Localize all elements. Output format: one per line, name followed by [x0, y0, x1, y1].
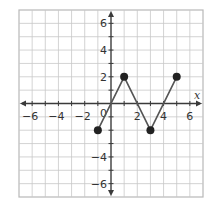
data-point: [146, 126, 154, 134]
x-tick-label: 4: [160, 110, 167, 123]
x-tick-label: 6: [186, 110, 193, 123]
data-point: [120, 73, 128, 81]
x-axis-left-arrow-icon: [20, 101, 26, 107]
x-axis-label: x: [194, 89, 201, 102]
y-axis-up-arrow-icon: [108, 11, 114, 17]
y-tick-label: 4: [100, 44, 107, 57]
y-tick-label: 2: [100, 71, 107, 84]
x-tick-label: −4: [48, 110, 64, 123]
data-point: [94, 126, 102, 134]
data-point: [173, 73, 181, 81]
coordinate-plane: −6−4−2246642−4−60x: [0, 0, 218, 211]
x-tick-label: 2: [134, 110, 141, 123]
x-tick-label: −6: [22, 110, 38, 123]
y-tick-label: −4: [91, 151, 107, 164]
y-axis-down-arrow-icon: [108, 190, 114, 196]
y-tick-label: −6: [91, 178, 107, 191]
x-tick-label: −2: [75, 110, 91, 123]
y-tick-label: 6: [100, 17, 107, 30]
